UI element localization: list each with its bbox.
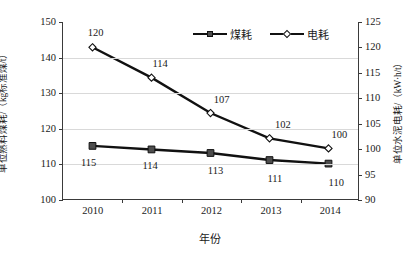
y-axis-left-tick-label: 140	[40, 52, 56, 63]
y-axis-left-title-text: 单位熟料煤耗/（kg标准煤/t）	[0, 49, 9, 173]
y-axis-left-tick-label: 150	[40, 17, 56, 28]
y-axis-right-tick-label: 95	[365, 169, 376, 180]
y-axis-left-tick	[59, 22, 63, 23]
y-axis-right-title: 单位水泥电耗/（kW·h/t）	[390, 58, 404, 165]
filled-square-icon	[207, 31, 214, 38]
y-axis-left-tick	[59, 129, 63, 130]
data-point-marker-square	[148, 146, 155, 153]
y-axis-right-title-text: 单位水泥电耗/（kW·h/t）	[393, 58, 403, 165]
chart-container: 单位熟料煤耗/（kg标准煤/t） 单位水泥电耗/（kW·h/t） 年份 1001…	[0, 0, 408, 267]
gridline	[63, 58, 358, 59]
y-axis-right-tick	[358, 98, 362, 99]
data-point-marker-diamond	[266, 135, 273, 142]
plot-area: 1001101201301401509095100105110115120125…	[62, 22, 359, 200]
legend-swatch-power	[270, 29, 304, 40]
y-axis-left-tick-label: 130	[40, 88, 56, 99]
y-axis-right-tick	[358, 200, 362, 201]
x-axis-tick-label: 2014	[320, 206, 341, 217]
data-label-煤耗-2011: 114	[142, 161, 157, 172]
gridline	[63, 93, 358, 94]
y-axis-right-tick	[358, 47, 362, 48]
data-label-电耗-2011: 114	[152, 59, 167, 70]
x-axis-tick	[122, 199, 123, 203]
data-label-电耗-2013: 102	[275, 120, 291, 131]
y-axis-right-tick	[358, 22, 362, 23]
data-point-marker-square	[266, 157, 273, 164]
x-axis-tick	[182, 199, 183, 203]
data-label-煤耗-2010: 115	[81, 157, 96, 168]
data-label-煤耗-2012: 113	[208, 165, 223, 176]
y-axis-left-tick-label: 110	[41, 159, 56, 170]
y-axis-right-tick-label: 105	[365, 118, 381, 129]
x-axis-title-text: 年份	[199, 233, 221, 245]
legend-swatch-coal	[193, 29, 227, 40]
data-label-电耗-2014: 100	[331, 130, 347, 141]
y-axis-right-tick-label: 90	[365, 195, 376, 206]
y-axis-right-tick-label: 120	[365, 42, 381, 53]
data-point-marker-diamond	[325, 145, 332, 152]
y-axis-left-title: 单位熟料煤耗/（kg标准煤/t）	[0, 49, 9, 173]
x-axis-title: 年份	[199, 230, 221, 246]
data-point-marker-square	[89, 143, 96, 150]
data-label-煤耗-2013: 111	[267, 174, 282, 185]
y-axis-right-tick	[358, 175, 362, 176]
x-axis-tick-label: 2012	[201, 206, 222, 217]
data-label-电耗-2012: 107	[214, 94, 230, 105]
legend-label-power: 电耗	[307, 26, 329, 42]
y-axis-right-tick	[358, 149, 362, 150]
y-axis-left-tick-label: 100	[40, 195, 56, 206]
data-label-煤耗-2014: 110	[329, 178, 344, 189]
legend-label-coal: 煤耗	[230, 26, 252, 42]
series-line-电耗	[93, 47, 329, 148]
y-axis-left-tick	[59, 93, 63, 94]
gridline	[63, 129, 358, 130]
x-axis-tick	[301, 199, 302, 203]
x-axis-tick-label: 2011	[142, 206, 163, 217]
y-axis-left-tick	[59, 200, 63, 201]
y-axis-left-tick	[59, 58, 63, 59]
y-axis-right-tick-label: 110	[365, 93, 380, 104]
y-axis-right-tick	[358, 124, 362, 125]
y-axis-left-tick-label: 120	[40, 124, 56, 135]
y-axis-right-tick	[358, 73, 362, 74]
y-axis-left-tick	[59, 164, 63, 165]
chart-legend: 煤耗 电耗	[193, 26, 329, 42]
legend-item-power: 电耗	[270, 26, 329, 42]
x-axis-tick-label: 2013	[260, 206, 281, 217]
data-point-marker-square	[207, 150, 214, 157]
y-axis-right-tick-label: 115	[365, 68, 380, 79]
legend-item-coal: 煤耗	[193, 26, 252, 42]
x-axis-tick-label: 2010	[82, 206, 103, 217]
data-label-电耗-2010: 120	[88, 28, 104, 39]
y-axis-right-tick-label: 125	[365, 17, 381, 28]
x-axis-tick	[241, 199, 242, 203]
y-axis-right-tick-label: 100	[365, 144, 381, 155]
open-diamond-icon	[283, 30, 291, 38]
